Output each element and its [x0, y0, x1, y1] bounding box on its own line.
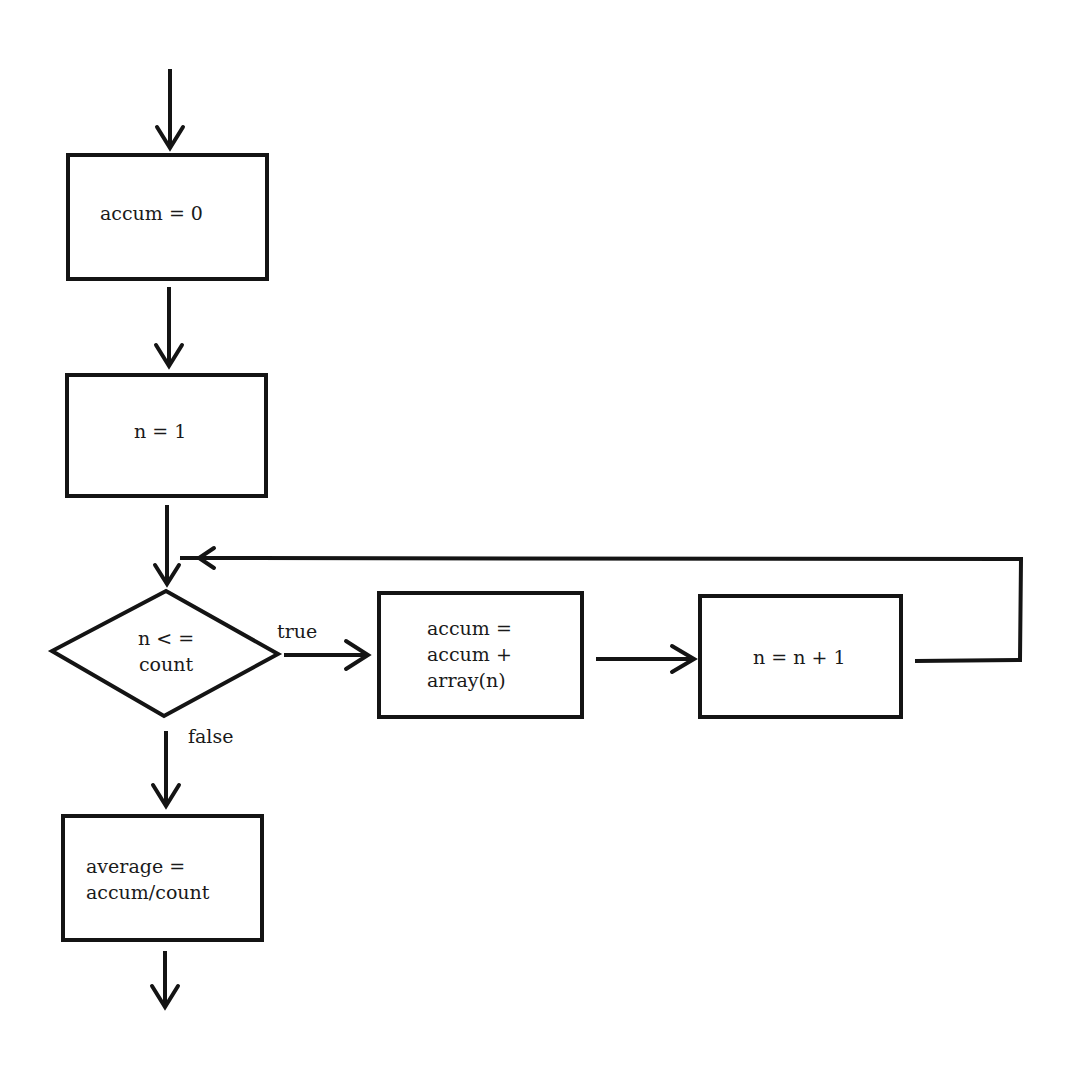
- arrow-accumulate-to-increment: [596, 646, 694, 672]
- compute-average-label-line1: average =: [86, 853, 209, 879]
- false-edge-label: false: [188, 723, 233, 749]
- decision-label-line1: n < =: [116, 625, 216, 651]
- decision-label-line2: count: [116, 651, 216, 677]
- compute-average-label: average = accum/count: [86, 853, 209, 905]
- accumulate-label-line1: accum =: [427, 615, 512, 641]
- accumulate-label-line2: accum +: [427, 641, 512, 667]
- flowchart-canvas: [0, 0, 1077, 1067]
- increment-label: n = n + 1: [753, 644, 846, 670]
- accumulate-label: accum = accum + array(n): [427, 615, 512, 693]
- arrow-n-to-decision: [155, 505, 179, 584]
- arrow-false: [153, 731, 179, 806]
- compute-average-label-line2: accum/count: [86, 879, 209, 905]
- decision-label: n < = count: [116, 625, 216, 677]
- true-edge-label: true: [277, 618, 317, 644]
- init-accum-label: accum = 0: [100, 200, 203, 226]
- exit-arrow: [152, 951, 178, 1007]
- arrow-accum-to-n: [156, 287, 182, 366]
- arrow-true: [284, 641, 368, 669]
- entry-arrow: [157, 69, 183, 148]
- accumulate-label-line3: array(n): [427, 667, 512, 693]
- init-n-label: n = 1: [134, 418, 186, 444]
